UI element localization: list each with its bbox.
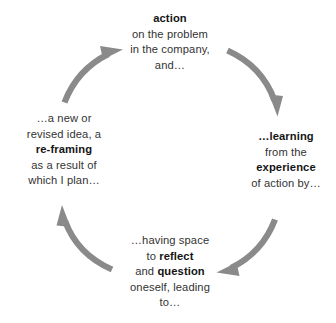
node-reflect-line-3: and question	[112, 264, 228, 280]
node-action-line-1: action	[110, 11, 230, 27]
node-learning-line-3: experience	[236, 160, 336, 176]
node-reframing-line-2: revised idea, a	[8, 127, 120, 143]
node-learning-line-4: of action by…	[236, 176, 336, 192]
node-reframing-line-4: as a result of	[8, 158, 120, 174]
node-action-line-2: on the problem	[110, 27, 230, 43]
arrow-reflect-to-reframing-icon	[57, 205, 113, 270]
node-learning-line-1: …learning	[236, 129, 336, 145]
node-reflect-line-2: to reflect	[112, 249, 228, 265]
node-reframing-line-1: …a new or	[8, 111, 120, 127]
node-reframing-line-3: re-framing	[8, 142, 120, 158]
node-reflect-line-4: oneself, leading	[112, 280, 228, 296]
node-action-line-3: in the company,	[110, 42, 230, 58]
cycle-node-action: action on the problem in the company, an…	[110, 11, 230, 73]
node-action-line-4: and…	[110, 58, 230, 74]
cycle-node-learning: …learning from the experience of action …	[236, 129, 336, 191]
node-reflect-line-3-plain: and	[135, 265, 157, 277]
node-reflect-line-3-bold: question	[157, 265, 204, 277]
cycle-node-reflect: …having space to reflect and question on…	[112, 233, 228, 311]
node-reframing-line-5: which I plan…	[8, 173, 120, 189]
cycle-diagram: action on the problem in the company, an…	[0, 0, 336, 323]
node-reflect-line-5: to…	[112, 295, 228, 311]
node-reflect-line-2-plain: to	[146, 250, 159, 262]
arrow-action-to-learning-icon	[228, 51, 284, 117]
node-reflect-line-1: …having space	[112, 233, 228, 249]
cycle-node-reframing: …a new or revised idea, a re-framing as …	[8, 111, 120, 189]
node-learning-line-2: from the	[236, 145, 336, 161]
node-reflect-line-2-bold: reflect	[159, 250, 193, 262]
